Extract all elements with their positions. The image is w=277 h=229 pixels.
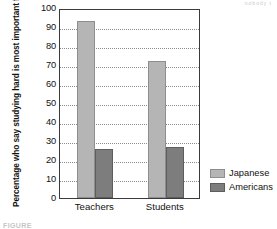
y-axis-tick-50: 50 [46, 99, 56, 108]
y-axis-tick-90: 90 [46, 23, 56, 32]
y-axis-tick-labels: 1009080706050403020100 [33, 9, 58, 199]
y-axis-title: Percentage who say studying hard is most… [11, 1, 21, 207]
plot-area [59, 9, 200, 199]
legend-item-japanese: Japanese [210, 168, 273, 178]
scan-artifact-bottom: FIGURE [3, 222, 32, 229]
bar-japanese-students [148, 61, 166, 198]
bar-chart: Percentage who say studying hard is most… [0, 0, 277, 229]
legend: JapaneseAmericans [210, 168, 273, 192]
bar-americans-teachers [95, 149, 113, 198]
y-axis-tick-60: 60 [46, 80, 56, 89]
y-axis-tick-30: 30 [46, 137, 56, 146]
y-axis-tick-70: 70 [46, 61, 56, 70]
legend-label-americans: Americans [229, 182, 273, 192]
y-axis-tick-100: 100 [41, 4, 56, 13]
y-axis-tick-80: 80 [46, 42, 56, 51]
y-axis-tick-40: 40 [46, 118, 56, 127]
legend-swatch-americans [210, 183, 225, 192]
x-axis-tick-students: Students [146, 201, 184, 213]
y-axis-title-container: Percentage who say studying hard is most… [0, 0, 33, 208]
legend-swatch-japanese [210, 169, 225, 178]
bar-americans-students [166, 147, 184, 198]
y-axis-tick-20: 20 [46, 156, 56, 165]
x-axis-tick-teachers: Teachers [75, 201, 114, 213]
legend-label-japanese: Japanese [229, 168, 269, 178]
legend-item-americans: Americans [210, 182, 273, 192]
scan-artifact-top: nobody t [245, 0, 272, 6]
bar-group-teachers [77, 10, 113, 198]
y-axis-tick-0: 0 [51, 194, 56, 203]
x-axis-tick-labels: TeachersStudents [59, 201, 200, 217]
bar-series-container [60, 10, 199, 198]
y-axis-tick-10: 10 [46, 175, 56, 184]
bar-group-students [148, 10, 184, 198]
bar-japanese-teachers [77, 21, 95, 198]
